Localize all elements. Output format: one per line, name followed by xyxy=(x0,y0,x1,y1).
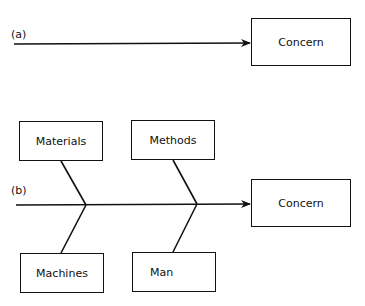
cause-box-man: Man xyxy=(132,252,216,292)
label-a: (a) xyxy=(11,28,26,41)
cause-box-methods: Methods xyxy=(131,120,215,160)
cause-text-methods: Methods xyxy=(150,134,197,147)
arrow-a xyxy=(14,43,250,44)
bone-methods xyxy=(173,160,197,204)
cause-text-materials: Materials xyxy=(36,135,86,148)
spine-b xyxy=(16,204,250,205)
cause-text-machines: Machines xyxy=(36,267,88,280)
bone-materials xyxy=(61,161,86,205)
label-b: (b) xyxy=(11,184,27,197)
cause-box-materials: Materials xyxy=(19,121,103,161)
concern-text-b: Concern xyxy=(278,197,324,210)
bone-machines xyxy=(61,205,86,253)
concern-box-a: Concern xyxy=(251,18,351,66)
cause-text-man: Man xyxy=(150,266,173,279)
bone-man xyxy=(173,204,197,252)
concern-text-a: Concern xyxy=(278,36,324,49)
cause-box-machines: Machines xyxy=(20,253,104,293)
concern-box-b: Concern xyxy=(251,179,351,227)
